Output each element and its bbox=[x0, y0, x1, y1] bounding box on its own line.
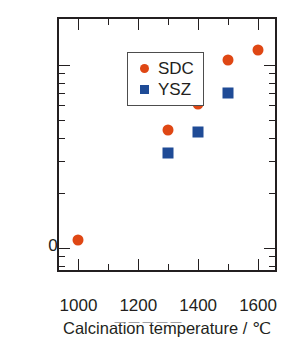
y-tick-minor bbox=[59, 138, 65, 139]
x-tick-major bbox=[78, 259, 79, 270]
y-tick-right-minor bbox=[269, 105, 275, 106]
legend-marker-square-icon bbox=[135, 85, 153, 94]
y-tick-right-minor bbox=[269, 161, 275, 162]
data-point-sdc bbox=[253, 45, 264, 56]
data-point-ysz bbox=[223, 88, 234, 99]
y-tick-right-major bbox=[264, 65, 275, 66]
legend: SDC YSZ bbox=[127, 52, 204, 106]
plot-frame: SDC YSZ 1000120014001600 Calcination tem… bbox=[57, 17, 277, 272]
caption-text: — — — — — bbox=[114, 319, 181, 327]
y-tick-right-minor bbox=[269, 256, 275, 257]
x-tick-major bbox=[198, 259, 199, 270]
x-tick-label: 1200 bbox=[119, 297, 157, 314]
data-point-sdc bbox=[73, 235, 84, 246]
x-tick-label: 1000 bbox=[60, 297, 98, 314]
legend-item-ysz: YSZ bbox=[135, 79, 194, 100]
y-tick-right-minor bbox=[269, 193, 275, 194]
plot-area: SDC YSZ bbox=[59, 19, 275, 270]
y-tick-right-minor bbox=[269, 138, 275, 139]
x-tick-label: 1400 bbox=[179, 297, 217, 314]
y-tick-minor bbox=[59, 105, 65, 106]
x-tick-top-major bbox=[198, 19, 199, 30]
x-tick-top-minor bbox=[108, 19, 109, 25]
x-tick-major bbox=[258, 259, 259, 270]
y-tick-right-minor bbox=[269, 266, 275, 267]
y-tick-minor bbox=[59, 266, 65, 267]
y-tick-minor bbox=[59, 161, 65, 162]
y-tick-right-minor bbox=[269, 93, 275, 94]
x-tick-top-minor bbox=[168, 19, 169, 25]
legend-label-sdc: SDC bbox=[158, 60, 194, 77]
x-tick-top-major bbox=[78, 19, 79, 30]
x-tick-top-major bbox=[138, 19, 139, 30]
y-tick-minor bbox=[59, 83, 65, 84]
y-tick-minor bbox=[59, 73, 65, 74]
data-point-sdc bbox=[223, 55, 234, 66]
x-tick-top-major bbox=[258, 19, 259, 30]
y-tick-minor bbox=[59, 256, 65, 257]
data-point-sdc bbox=[163, 125, 174, 136]
caption-strip: — — — — — bbox=[0, 319, 296, 329]
y-tick-right-major bbox=[264, 248, 275, 249]
x-tick-minor bbox=[168, 264, 169, 270]
y-tick-right-minor bbox=[269, 73, 275, 74]
data-point-ysz bbox=[193, 126, 204, 137]
x-tick-minor bbox=[108, 264, 109, 270]
legend-marker-circle-icon bbox=[135, 64, 153, 73]
x-tick-label: 1600 bbox=[239, 297, 277, 314]
y-tick-minor bbox=[59, 120, 65, 121]
data-point-ysz bbox=[163, 147, 174, 158]
y-tick-minor bbox=[59, 93, 65, 94]
y-tick-major bbox=[59, 248, 70, 249]
x-tick-top-minor bbox=[228, 19, 229, 25]
y-tick-minor bbox=[59, 193, 65, 194]
legend-label-ysz: YSZ bbox=[158, 81, 191, 98]
y-tick-right-minor bbox=[269, 120, 275, 121]
x-tick-minor bbox=[228, 264, 229, 270]
y-tick-major bbox=[59, 65, 70, 66]
legend-item-sdc: SDC bbox=[135, 58, 194, 79]
y-tick-right-minor bbox=[269, 83, 275, 84]
x-tick-major bbox=[138, 259, 139, 270]
